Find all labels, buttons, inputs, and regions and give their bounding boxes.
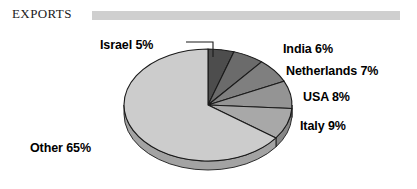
pie-chart-svg [0, 0, 417, 189]
exports-chart-page: EXPORTS Israel 5% India 6% Netherlands 7… [0, 0, 417, 189]
slice-label-netherlands: Netherlands 7% [286, 64, 378, 78]
slice-label-israel: Israel 5% [100, 38, 153, 52]
slice-label-other: Other 65% [30, 141, 91, 155]
slice-label-italy: Italy 9% [300, 119, 346, 133]
slice-label-usa: USA 8% [303, 90, 350, 104]
pie-chart: Israel 5% India 6% Netherlands 7% USA 8%… [0, 0, 417, 189]
pie-slice-group [124, 49, 292, 161]
slice-label-india: India 6% [283, 42, 333, 56]
